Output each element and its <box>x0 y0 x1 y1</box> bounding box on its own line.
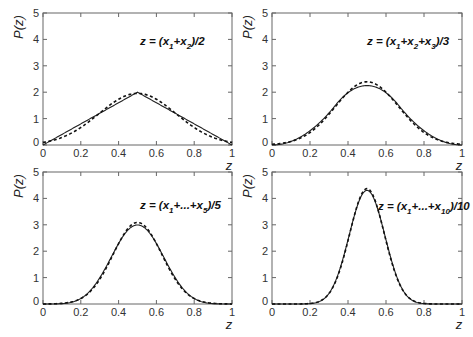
y-tick-label: 1 <box>262 272 268 284</box>
x-tick-label: 0.4 <box>340 147 355 159</box>
x-tick-label: 0.8 <box>416 306 431 318</box>
x-tick-label: 0.2 <box>302 147 317 159</box>
panel-top-right: 01234500.20.40.60.81zP(z)z = (x1+x2+x3)/… <box>240 7 465 173</box>
y-tick-label: 3 <box>33 219 39 231</box>
x-tick-label: 0.4 <box>340 306 355 318</box>
panel-annotation: z = (x1+x2)/2 <box>139 35 205 51</box>
plot-frame <box>43 13 232 145</box>
panel-annotation: z = (x1+x2+x3)/3 <box>366 35 450 51</box>
x-tick-label: 0 <box>269 147 275 159</box>
plot-frame <box>272 13 462 145</box>
panel-annotation: z = (x1+...+x10)/10 <box>377 200 470 216</box>
y-tick-label: 3 <box>33 60 39 72</box>
y-axis-label: P(z) <box>11 15 26 39</box>
y-tick-label: 1 <box>33 113 39 125</box>
x-axis-label: z <box>225 158 233 173</box>
x-tick-label: 0.6 <box>149 306 164 318</box>
y-tick-label: 2 <box>33 245 39 257</box>
y-tick-label: 3 <box>262 60 268 72</box>
x-tick-label: 0.8 <box>187 147 202 159</box>
series-gaussian-line <box>272 82 462 144</box>
y-tick-label: 2 <box>33 86 39 98</box>
y-tick-label: 1 <box>33 272 39 284</box>
x-tick-label: 0.8 <box>187 306 202 318</box>
y-tick-label: 0 <box>262 295 268 307</box>
series-gaussian-line <box>43 222 232 304</box>
y-tick-label: 3 <box>262 219 268 231</box>
y-tick-label: 4 <box>33 33 39 45</box>
panel-annotation: z = (x1+...+x5)/5 <box>139 199 221 215</box>
x-tick-label: 0.2 <box>73 147 88 159</box>
x-axis-label: z <box>455 158 463 173</box>
x-tick-label: 0.4 <box>111 306 126 318</box>
series-gaussian-line <box>43 93 232 142</box>
x-tick-label: 0.6 <box>149 147 164 159</box>
x-tick-label: 0 <box>40 306 46 318</box>
panel-bottom-left: 01234500.20.40.60.81zP(z)z = (x1+...+x5)… <box>11 166 235 332</box>
panel-bottom-right: 01234500.20.40.60.81zP(z)z = (x1+...+x10… <box>240 166 470 332</box>
y-tick-label: 0 <box>33 136 39 148</box>
y-tick-label: 5 <box>33 7 39 19</box>
y-tick-label: 4 <box>33 192 39 204</box>
plot-frame <box>272 172 462 304</box>
y-tick-label: 5 <box>262 166 268 178</box>
x-tick-label: 0.6 <box>378 147 393 159</box>
y-axis-label: P(z) <box>240 15 255 39</box>
x-tick-label: 0.2 <box>302 306 317 318</box>
y-axis-label: P(z) <box>240 174 255 198</box>
y-tick-label: 2 <box>262 245 268 257</box>
series-exact-line <box>43 92 232 145</box>
panel-top-left: 01234500.20.40.60.81zP(z)z = (x1+x2)/2 <box>11 7 235 173</box>
series-exact-line <box>272 86 462 145</box>
x-tick-label: 0.4 <box>111 147 126 159</box>
y-tick-label: 4 <box>262 192 268 204</box>
y-tick-label: 0 <box>33 295 39 307</box>
x-tick-label: 0.6 <box>378 306 393 318</box>
x-tick-label: 0.8 <box>416 147 431 159</box>
plot-frame <box>43 172 232 304</box>
y-tick-label: 0 <box>262 136 268 148</box>
y-tick-label: 1 <box>262 113 268 125</box>
x-axis-label: z <box>455 317 463 332</box>
series-exact-line <box>43 225 232 304</box>
x-axis-label: z <box>225 317 233 332</box>
y-axis-label: P(z) <box>11 174 26 198</box>
x-tick-label: 0 <box>40 147 46 159</box>
y-tick-label: 5 <box>33 166 39 178</box>
x-tick-label: 0 <box>269 306 275 318</box>
y-tick-label: 2 <box>262 86 268 98</box>
y-tick-label: 5 <box>262 7 268 19</box>
figure: 01234500.20.40.60.81zP(z)z = (x1+x2)/201… <box>0 0 473 337</box>
y-tick-label: 4 <box>262 33 268 45</box>
x-tick-label: 0.2 <box>73 306 88 318</box>
